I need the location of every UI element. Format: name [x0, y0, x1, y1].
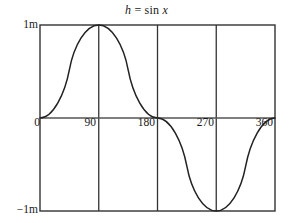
- plot-area: [0, 0, 293, 223]
- x-tick-label-0: 0: [26, 116, 40, 128]
- y-axis-label-max: 1m: [4, 19, 38, 31]
- x-tick-label-360: 360: [241, 116, 273, 128]
- x-tick-label-180: 180: [123, 116, 155, 128]
- x-tick-label-90: 90: [71, 116, 96, 128]
- x-tick-label-270: 270: [182, 116, 214, 128]
- sine-function-figure: h = sin x 1m −1m 0 90 180 270 360: [0, 0, 293, 223]
- y-axis-label-min: −1m: [0, 204, 38, 216]
